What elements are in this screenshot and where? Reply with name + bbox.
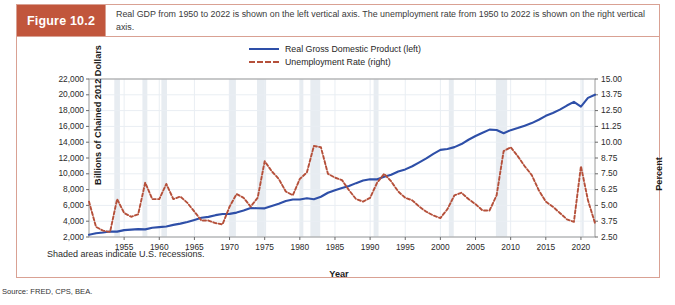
y-tick-label-right: 15.00 (601, 74, 641, 84)
y-tick-label-left: 6,000 (41, 200, 84, 210)
figure-caption: Real GDP from 1950 to 2022 is shown on t… (116, 8, 651, 34)
x-tick-label: 1975 (248, 242, 282, 252)
figure-container: Figure 10.2 Real GDP from 1950 to 2022 i… (0, 0, 675, 305)
x-tick-label: 2005 (459, 242, 493, 252)
y-tick-label-right: 5.00 (601, 200, 641, 210)
legend-swatch-unemployment-icon (249, 61, 279, 63)
y-tick-label-right: 7.50 (601, 168, 641, 178)
x-tick-label: 1985 (318, 242, 352, 252)
y-tick-label-right: 6.25 (601, 184, 641, 194)
y-tick-label-right: 13.75 (601, 89, 641, 99)
figure-body: Real Gross Domestic Product (left) Unemp… (16, 36, 660, 278)
y-tick-label-left: 16,000 (41, 121, 84, 131)
x-tick-label: 1955 (107, 242, 141, 252)
y-tick-label-left: 22,000 (41, 74, 84, 84)
x-tick-label: 1960 (142, 242, 176, 252)
y-tick-label-right: 3.75 (601, 216, 641, 226)
chart-legend: Real Gross Domestic Product (left) Unemp… (249, 43, 421, 67)
x-tick-label: 1990 (353, 242, 387, 252)
y-axis-title-left: Billions of Chained 2012 Dollars (93, 30, 103, 200)
x-tick-label: 1965 (177, 242, 211, 252)
y-tick-label-left: 12,000 (41, 153, 84, 163)
y-tick-label-left: 20,000 (41, 89, 84, 99)
x-tick-label: 1980 (283, 242, 317, 252)
legend-swatch-gdp-icon (249, 48, 279, 50)
y-tick-label-right: 10.00 (601, 137, 641, 147)
legend-label-unemployment: Unemployment Rate (right) (285, 57, 391, 67)
y-tick-label-left: 2,000 (41, 232, 84, 242)
figure-header: Figure 10.2 Real GDP from 1950 to 2022 i… (16, 4, 660, 37)
figure-caption-wrap: Real GDP from 1950 to 2022 is shown on t… (105, 5, 659, 37)
y-tick-label-left: 18,000 (41, 105, 84, 115)
legend-item-gdp: Real Gross Domestic Product (left) (249, 43, 421, 54)
y-tick-label-right: 8.75 (601, 153, 641, 163)
y-tick-label-right: 12.50 (601, 105, 641, 115)
figure-source: Source: FRED, CPS, BEA. (2, 287, 92, 296)
y-tick-label-left: 10,000 (41, 168, 84, 178)
figure-number-badge: Figure 10.2 (17, 5, 105, 37)
x-tick-label: 1995 (388, 242, 422, 252)
x-tick-label: 2015 (529, 242, 563, 252)
x-tick-label: 2010 (494, 242, 528, 252)
x-axis-title: Year (17, 269, 661, 279)
y-tick-label-left: 14,000 (41, 137, 84, 147)
y-tick-label-right: 11.25 (601, 121, 641, 131)
legend-label-gdp: Real Gross Domestic Product (left) (285, 44, 421, 54)
legend-item-unemployment: Unemployment Rate (right) (249, 56, 421, 67)
y-axis-title-right: Percent (654, 144, 664, 204)
x-tick-label: 2000 (423, 242, 457, 252)
x-tick-label: 2020 (564, 242, 598, 252)
x-tick-label: 1970 (213, 242, 247, 252)
y-tick-label-left: 8,000 (41, 184, 84, 194)
y-tick-label-left: 4,000 (41, 216, 84, 226)
y-tick-label-right: 2.50 (601, 232, 641, 242)
